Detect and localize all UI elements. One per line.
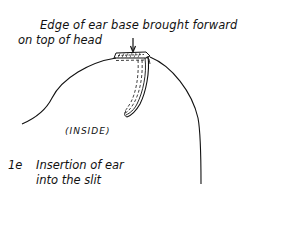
ear-flap (125, 56, 150, 117)
head-outline (22, 58, 116, 124)
figure-caption-line-1: Insertion of ear (36, 160, 124, 172)
inside-label: (INSIDE) (65, 127, 110, 136)
pointer-arrow-icon (131, 38, 136, 52)
figure-caption-line-2: into the slit (36, 175, 101, 187)
head-outline-right (150, 57, 201, 184)
figure-number: 1e (8, 160, 22, 172)
ear-base-edge (114, 52, 150, 61)
